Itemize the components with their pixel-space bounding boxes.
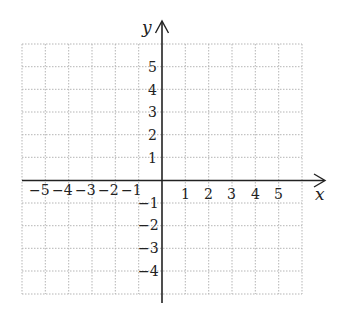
x-axis-label: x — [315, 184, 325, 204]
x-tick-label: −3 — [75, 182, 96, 198]
y-tick-label: −2 — [138, 217, 159, 233]
y-tick-label: −1 — [138, 195, 159, 211]
x-tick-label: 2 — [204, 186, 213, 202]
x-tick-labels-positive: 1 2 3 4 5 — [181, 186, 283, 202]
y-tick-label: −3 — [138, 240, 159, 256]
y-tick-label: 3 — [148, 104, 157, 120]
x-tick-label: −4 — [52, 182, 73, 198]
y-tick-label: −4 — [138, 263, 159, 279]
y-axis — [156, 21, 169, 303]
y-tick-labels-positive: 5 4 3 2 1 — [148, 59, 157, 166]
x-tick-label: 5 — [274, 186, 283, 202]
x-tick-label: 3 — [227, 186, 236, 202]
x-tick-label: −2 — [98, 182, 119, 198]
y-tick-label: 4 — [148, 82, 157, 98]
x-tick-label: 1 — [181, 186, 190, 202]
coordinate-plane: x y −5 −4 −3 −2 −1 1 2 3 4 5 5 4 3 2 1 −… — [0, 0, 341, 312]
x-tick-label: −5 — [29, 182, 50, 198]
x-tick-labels-negative: −5 −4 −3 −2 −1 — [29, 182, 142, 198]
y-tick-label: 5 — [148, 59, 157, 75]
y-tick-label: 1 — [148, 150, 157, 166]
y-tick-label: 2 — [148, 127, 157, 143]
y-tick-labels-negative: −1 −2 −3 −4 — [138, 195, 159, 279]
y-axis-label: y — [141, 17, 152, 37]
x-tick-label: 4 — [251, 186, 260, 202]
